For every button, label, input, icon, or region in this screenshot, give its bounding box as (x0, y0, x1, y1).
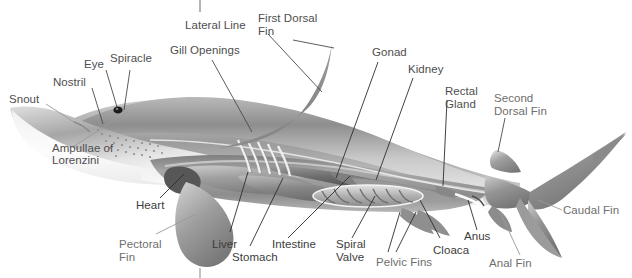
shark-anatomy-figure: Snout Nostril Eye Spiracle Ampullae of L… (0, 0, 632, 278)
label-rectal-gland-line1: Rectal (445, 85, 478, 98)
label-second-dorsal-fin-line2: Dorsal Fin (494, 105, 547, 118)
label-nostril: Nostril (53, 76, 86, 89)
anal-fin (488, 206, 512, 232)
leader-pelvic-fins-a (388, 212, 400, 252)
leader-first-dorsal-fin (293, 40, 334, 48)
label-heart: Heart (136, 199, 164, 212)
label-anus: Anus (464, 230, 490, 243)
pelvic-fins (400, 208, 450, 236)
label-pectoral-fin-line1: Pectoral (119, 238, 162, 251)
label-ampullae-of-lorenzini-line1: Ampullae of (52, 142, 113, 155)
shark-anatomy-illustration (0, 0, 632, 278)
label-eye: Eye (84, 58, 104, 71)
label-lateral-line: Lateral Line (185, 19, 246, 32)
second-dorsal-fin (490, 150, 521, 173)
label-rectal-gland-line2: Gland (445, 98, 476, 111)
label-spiracle: Spiracle (110, 52, 152, 65)
label-ampullae-of-lorenzini-line2: Lorenzini (52, 154, 99, 167)
label-kidney: Kidney (408, 63, 443, 76)
eye-highlight (116, 108, 119, 110)
label-stomach: Stomach (232, 251, 278, 264)
label-snout: Snout (9, 93, 39, 106)
label-intestine: Intestine (272, 238, 316, 251)
label-pectoral-fin-line2: Fin (119, 251, 135, 264)
label-first-dorsal-fin-line2: Fin (258, 25, 274, 38)
label-liver: Liver (212, 238, 237, 251)
caudal-fin-upper-notch (592, 134, 626, 164)
leader-lateral-line (268, 34, 322, 92)
label-second-dorsal-fin-line1: Second (494, 92, 533, 105)
label-first-dorsal-fin-line1: First Dorsal (258, 12, 317, 25)
label-pelvic-fins: Pelvic Fins (376, 256, 432, 269)
label-gonad: Gonad (372, 46, 407, 59)
shark-body (10, 42, 626, 267)
label-spiral-valve-line1: Spiral (336, 238, 366, 251)
leader-anal-fin (500, 212, 520, 255)
label-caudal-fin: Caudal Fin (563, 204, 619, 217)
label-spiral-valve-line2: Valve (336, 251, 364, 264)
eye (113, 106, 122, 113)
label-anal-fin: Anal Fin (489, 257, 532, 270)
label-gill-openings: Gill Openings (170, 44, 240, 57)
leader-eye (106, 70, 117, 107)
label-cloaca: Cloaca (433, 244, 469, 257)
leader-second-dorsal-fin (498, 118, 505, 152)
